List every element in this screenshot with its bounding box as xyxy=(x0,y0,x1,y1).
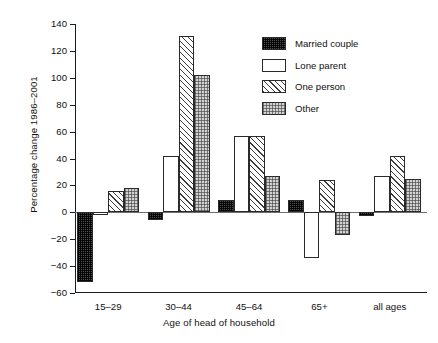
category-label: 45–64 xyxy=(236,301,263,312)
bar xyxy=(179,36,195,212)
y-tick-label: 60 xyxy=(27,127,67,137)
legend-swatch-icon xyxy=(262,80,286,93)
bar xyxy=(93,212,109,215)
bar xyxy=(77,212,93,282)
bar xyxy=(148,212,164,220)
legend-item: Married couple xyxy=(262,36,430,53)
y-tick xyxy=(70,159,75,160)
y-tick-label: −40 xyxy=(27,261,67,271)
y-tick-label: −60 xyxy=(27,288,67,298)
bar xyxy=(304,212,320,258)
y-tick xyxy=(70,51,75,52)
y-tick xyxy=(70,266,75,267)
category-label: 30–44 xyxy=(165,301,192,312)
bar-group xyxy=(77,24,139,293)
y-axis-title: Percentage change 1986–2001 xyxy=(28,30,39,260)
bar xyxy=(249,136,265,213)
y-tick xyxy=(70,293,75,294)
legend-item: Other xyxy=(262,101,430,118)
legend-label: One person xyxy=(295,81,345,92)
bar xyxy=(218,200,234,212)
y-tick-label: 120 xyxy=(27,46,67,56)
y-tick-label: 80 xyxy=(27,100,67,110)
y-tick-label: 140 xyxy=(27,19,67,29)
bar xyxy=(124,188,140,212)
bar xyxy=(163,156,179,212)
y-tick xyxy=(70,212,75,213)
bar xyxy=(405,179,421,213)
bar xyxy=(319,180,335,212)
y-tick xyxy=(70,239,75,240)
y-tick xyxy=(70,105,75,106)
bar xyxy=(288,200,304,212)
bar xyxy=(359,212,375,216)
y-tick xyxy=(70,185,75,186)
legend-swatch-icon xyxy=(262,37,286,50)
bar xyxy=(335,212,351,235)
bar xyxy=(194,75,210,212)
legend-label: Other xyxy=(295,103,319,114)
legend-label: Married couple xyxy=(295,38,358,49)
y-tick-label: 20 xyxy=(27,181,67,191)
y-tick xyxy=(70,24,75,25)
y-tick-label: 100 xyxy=(27,73,67,83)
y-tick-label: 0 xyxy=(27,208,67,218)
bar xyxy=(108,191,124,213)
y-tick-label: −20 xyxy=(27,234,67,244)
bar xyxy=(234,136,250,213)
y-axis-line xyxy=(75,24,76,293)
legend-item: Lone parent xyxy=(262,58,430,75)
chart-legend: Married coupleLone parentOne personOther xyxy=(262,36,430,122)
legend-label: Lone parent xyxy=(295,60,346,71)
bar xyxy=(390,156,406,212)
bar xyxy=(374,176,390,212)
legend-item: One person xyxy=(262,79,430,96)
y-tick xyxy=(70,132,75,133)
legend-swatch-icon xyxy=(262,102,286,115)
bar-chart-figure: Percentage change 1986–2001 Age of head … xyxy=(0,0,438,343)
bar-group xyxy=(148,24,210,293)
bar xyxy=(265,176,281,212)
y-tick-label: 40 xyxy=(27,154,67,164)
y-tick xyxy=(70,78,75,79)
category-label: all ages xyxy=(373,301,406,312)
legend-swatch-icon xyxy=(262,59,286,72)
category-label: 65+ xyxy=(311,301,327,312)
x-axis-title: Age of head of household xyxy=(0,317,438,328)
category-label: 15–29 xyxy=(95,301,122,312)
